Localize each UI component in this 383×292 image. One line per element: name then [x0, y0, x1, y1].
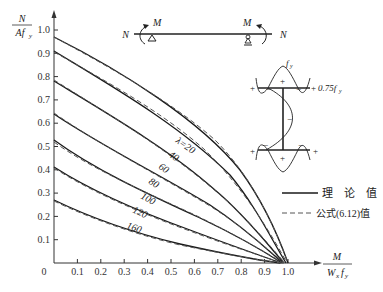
- curve-lambda-100-formula: [54, 142, 283, 263]
- legend-formula-label: 公式(6.12)值: [316, 207, 370, 220]
- y-tick-label: 0.4: [38, 164, 51, 175]
- x-label-numerator: M: [332, 251, 342, 262]
- x-tick-labels: 0.1 0.2 0.3 0.4 0.5 0.6 0.7 0.8 0.9 1.0: [71, 266, 294, 277]
- beam-m-left: M: [152, 17, 162, 28]
- stress-075-sub: y: [338, 88, 342, 94]
- x-tick-label: 1.0: [282, 266, 295, 277]
- y-tick-label: 0.7: [38, 94, 51, 105]
- moment-arrow-right-icon: [260, 26, 266, 44]
- stress-fy-sub: y: [289, 63, 293, 69]
- y-axis-label: N Af y: [12, 13, 33, 40]
- y-tick-label: 0.2: [38, 211, 51, 222]
- plus-sign: +: [250, 83, 255, 93]
- x-axis-label: M W x f y: [323, 251, 352, 280]
- label-lambda-120: 120: [131, 204, 149, 220]
- y-tick-label: 0.9: [38, 48, 51, 59]
- beam-n-left: N: [121, 29, 130, 40]
- x-tick-label: 0.1: [71, 266, 84, 277]
- curve-lambda-100-theory: [54, 140, 282, 263]
- x-tick-label: 0.6: [188, 266, 201, 277]
- label-lambda-80: 80: [147, 175, 161, 190]
- y-label-subscript: y: [28, 32, 33, 40]
- x-label-subscript-y: y: [344, 272, 349, 280]
- plus-sign: +: [250, 146, 255, 156]
- stress-labels: f y 0.75f y + + + − − − + + + − −: [250, 58, 342, 163]
- beam-n-right: N: [279, 29, 288, 40]
- minus-sign: −: [296, 84, 301, 94]
- pin-support-icon: [148, 35, 156, 41]
- x-tick-label: 0.5: [165, 266, 178, 277]
- beam-m-right: M: [242, 17, 252, 28]
- plus-sign: +: [280, 153, 285, 163]
- y-tick-label: 0.1: [38, 234, 51, 245]
- y-tick-label: 1.0: [38, 24, 51, 35]
- x-tick-label: 0.4: [141, 266, 154, 277]
- x-tick-label: 0.2: [95, 266, 108, 277]
- y-tick-label: 0.5: [38, 141, 51, 152]
- stress-075-label: 0.75f: [318, 83, 338, 93]
- y-tick-label: 0.6: [38, 117, 51, 128]
- minus-sign: −: [266, 84, 271, 94]
- x-tick-label: 0.7: [212, 266, 225, 277]
- label-lambda-100: 100: [139, 190, 157, 207]
- curve-lambda-60-theory: [54, 81, 284, 263]
- y-label-denominator: Af: [15, 27, 26, 38]
- x-axis-arrow-icon: [314, 261, 322, 266]
- beam-diagram: N N M M: [121, 17, 288, 45]
- y-tick-labels: 0.1 0.2 0.3 0.4 0.5 0.6 0.7 0.8 0.9 1.0: [38, 24, 51, 245]
- y-tick-label: 0.8: [38, 71, 51, 82]
- origin-label: 0: [42, 266, 47, 277]
- y-axis-arrow-icon: [52, 10, 57, 18]
- y-label-numerator: N: [18, 13, 27, 24]
- plus-sign: +: [280, 76, 285, 86]
- plus-sign: +: [313, 146, 318, 156]
- minus-sign: −: [287, 114, 292, 124]
- plus-sign: +: [311, 83, 316, 93]
- legend: 理 论 值 公式(6.12)值: [282, 186, 377, 220]
- moment-arrow-left-icon: [140, 26, 147, 44]
- minus-sign: −: [298, 140, 303, 150]
- x-tick-label: 0.3: [118, 266, 131, 277]
- y-tick-label: 0.3: [38, 187, 51, 198]
- y-ticks: [54, 30, 58, 240]
- interaction-curve-chart: 0.1 0.2 0.3 0.4 0.5 0.6 0.7 0.8 0.9 1.0 …: [0, 0, 383, 292]
- x-tick-label: 0.9: [258, 266, 271, 277]
- curve-lambda-80-formula: [54, 113, 284, 263]
- x-tick-label: 0.8: [235, 266, 248, 277]
- label-lambda-60: 60: [157, 161, 172, 176]
- roller-support-icon: [244, 35, 252, 45]
- legend-theory-label: 理 论 值: [322, 186, 377, 199]
- minus-sign: −: [263, 140, 268, 150]
- x-label-subscript-x: x: [335, 272, 340, 280]
